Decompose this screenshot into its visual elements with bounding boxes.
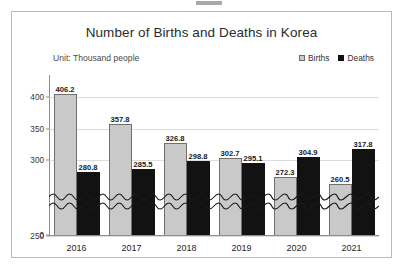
bar-births-2016[interactable]: 406.2 [54,94,77,236]
bar-deaths-2016[interactable]: 280.8 [77,172,100,236]
bar-value-label: 295.1 [243,154,262,163]
bar-value-label: 298.8 [188,152,207,161]
chart-title: Number of Births and Deaths in Korea [12,25,391,40]
x-axis-label-2020: 2020 [269,243,324,253]
bar-value-label: 272.3 [275,168,294,177]
x-axis-label-2017: 2017 [104,243,159,253]
bar-deaths-2020[interactable]: 304.9 [297,157,320,236]
legend-item-births: Births [299,53,329,63]
legend-item-deaths: Deaths [338,53,374,63]
bar-group: 406.2280.82016 [49,75,104,236]
bar-value-label: 326.8 [165,134,184,143]
bar-value-label: 260.5 [330,175,349,184]
bar-group: 260.5317.82021 [324,75,379,236]
scan-artifact [196,1,222,5]
bar-births-2018[interactable]: 326.8 [164,143,187,236]
x-axis-label-2016: 2016 [49,243,104,253]
legend-swatch-births-icon [299,55,305,61]
bar-value-label: 285.5 [133,160,152,169]
bar-deaths-2017[interactable]: 285.5 [132,169,155,236]
bar-births-2017[interactable]: 357.8 [109,124,132,236]
bar-births-2020[interactable]: 272.3 [274,177,297,236]
bar-deaths-2021[interactable]: 317.8 [352,149,375,236]
bar-deaths-2019[interactable]: 295.1 [242,163,265,236]
x-axis-label-2019: 2019 [214,243,269,253]
bar-group: 302.7295.12019 [214,75,269,236]
chart-frame: Number of Births and Deaths in Korea Uni… [11,11,392,258]
bar-value-label: 357.8 [110,115,129,124]
x-axis-label-2018: 2018 [159,243,214,253]
x-axis-baseline [49,235,379,236]
bar-deaths-2018[interactable]: 298.8 [187,161,210,236]
x-axis-label-2021: 2021 [324,243,379,253]
bar-value-label: 280.8 [78,163,97,172]
bar-births-2019[interactable]: 302.7 [219,158,242,236]
bar-value-label: 317.8 [353,140,372,149]
bar-value-label: 304.9 [298,148,317,157]
bar-value-label: 406.2 [55,85,74,94]
bar-group: 272.3304.92020 [269,75,324,236]
plot-area: 4003503002500 406.2280.82016357.8285.520… [49,75,379,236]
legend-label-deaths: Deaths [347,53,374,63]
legend-label-births: Births [308,53,329,63]
chart-legend: Births Deaths [299,53,374,63]
gridline [49,236,379,237]
bar-group: 326.8298.82018 [159,75,214,236]
legend-swatch-deaths-icon [338,55,344,61]
unit-label: Unit: Thousand people [53,53,139,63]
bar-value-label: 302.7 [220,149,239,158]
bar-births-2021[interactable]: 260.5 [329,184,352,236]
bar-group: 357.8285.52017 [104,75,159,236]
